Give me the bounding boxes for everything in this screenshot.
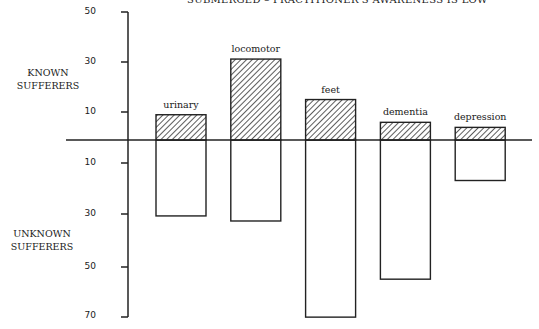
unknown-bar-feet xyxy=(306,140,356,317)
category-label-feet: feet xyxy=(291,84,371,95)
unknown-bar-locomotor xyxy=(231,140,281,221)
category-label-urinary: urinary xyxy=(141,99,221,110)
known-bar-urinary xyxy=(156,115,206,140)
category-label-locomotor: locomotor xyxy=(216,43,296,54)
category-label-depression: depression xyxy=(440,111,520,122)
known-bar-depression xyxy=(455,127,505,140)
known-bar-feet xyxy=(306,100,356,140)
known-bar-dementia xyxy=(380,122,430,140)
unknown-bar-depression xyxy=(455,140,505,181)
known-bar-locomotor xyxy=(231,59,281,140)
category-label-dementia: dementia xyxy=(365,106,445,117)
unknown-bar-urinary xyxy=(156,140,206,216)
unknown-bar-dementia xyxy=(380,140,430,279)
